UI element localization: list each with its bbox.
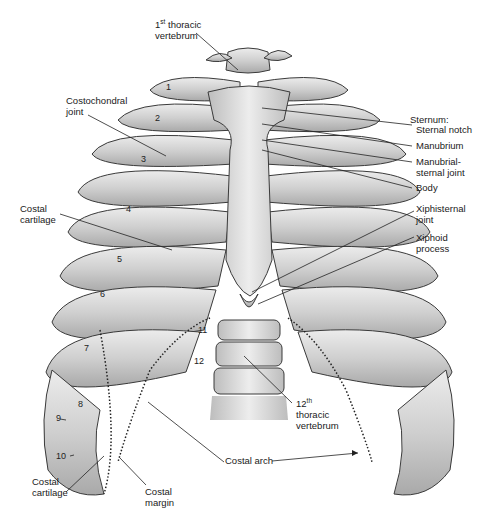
label-text: joint xyxy=(416,214,433,225)
label-text: vertebrum xyxy=(155,30,198,41)
label-text: Xiphisternal xyxy=(416,203,466,214)
label-text: Costal xyxy=(32,476,59,487)
label-body: Body xyxy=(416,182,438,193)
label-twelfth-thoracic-vertebrum: 12th thoracic vertebrum xyxy=(296,398,339,431)
rib-number-10: 10 xyxy=(56,451,66,461)
label-xiphoid-process: Xiphoid process xyxy=(416,232,449,254)
label-costal-cartilage-lower: Costal cartilage xyxy=(32,476,68,498)
label-text: thoracic xyxy=(296,409,329,420)
label-text: Costal xyxy=(20,203,47,214)
label-text: thoracic xyxy=(165,19,201,30)
rib-number-12: 12 xyxy=(194,356,204,366)
thoracic-cage-diagram: 1st thoracic vertebrum Costochondral joi… xyxy=(0,0,489,522)
label-costal-margin: Costal margin xyxy=(145,486,174,508)
label-text: cartilage xyxy=(20,214,56,225)
label-text: margin xyxy=(145,497,174,508)
rib-number-4: 4 xyxy=(126,204,131,214)
label-text: sternal joint xyxy=(416,167,465,178)
first-thoracic-vertebra xyxy=(226,48,270,73)
label-manubrial-sternal-joint: Manubrial- sternal joint xyxy=(416,156,465,178)
label-xiphisternal-joint: Xiphisternal joint xyxy=(416,203,466,225)
label-costochondral-joint: Costochondral joint xyxy=(66,95,127,117)
label-text: Costochondral xyxy=(66,95,127,106)
label-first-thoracic-vertebrum: 1st thoracic vertebrum xyxy=(155,19,201,41)
label-text: cartilage xyxy=(32,487,68,498)
rib-number-2: 2 xyxy=(155,113,160,123)
label-sternal-notch: Sternal notch xyxy=(416,124,472,135)
label-text: process xyxy=(416,243,449,254)
rib-number-1: 1 xyxy=(166,82,171,92)
rib-number-8: 8 xyxy=(78,399,83,409)
label-text: Costal xyxy=(145,486,172,497)
label-text: Xiphoid xyxy=(416,232,448,243)
label-costal-arch: Costal arch xyxy=(225,455,273,466)
rib-number-9: 9 xyxy=(56,413,61,423)
rib-number-7: 7 xyxy=(84,343,89,353)
label-text: vertebrum xyxy=(296,420,339,431)
rib-number-3: 3 xyxy=(141,154,146,164)
rib-number-6: 6 xyxy=(100,289,105,299)
label-text: Manubrial- xyxy=(416,156,461,167)
rib-number-5: 5 xyxy=(117,254,122,264)
label-superscript: th xyxy=(307,397,312,404)
rib-number-11: 11 xyxy=(198,325,207,335)
label-manubrium: Manubrium xyxy=(416,140,464,151)
rib-cage-illustration xyxy=(0,0,489,522)
label-text: joint xyxy=(66,106,83,117)
label-text: 12 xyxy=(296,398,307,409)
label-costal-cartilage-upper: Costal cartilage xyxy=(20,203,56,225)
